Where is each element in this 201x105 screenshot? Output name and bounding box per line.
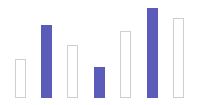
bar-4-filled — [94, 67, 105, 98]
bar-6-filled — [147, 8, 158, 98]
bar-3-outline — [67, 45, 78, 98]
bar-2-filled — [41, 25, 52, 98]
bar-5-outline — [120, 31, 131, 98]
bar-7-outline — [173, 18, 184, 98]
bar-1-outline — [15, 59, 26, 98]
bar-chart — [0, 0, 201, 105]
